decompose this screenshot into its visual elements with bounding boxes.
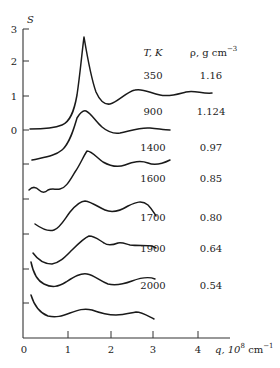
table-header-density: ρ, g cm−3 (190, 45, 237, 58)
x-axis-label: q, 108 cm−1 (215, 342, 274, 355)
header-rho-exp: −3 (227, 45, 237, 53)
y-tick-label: 3 (11, 24, 17, 35)
row-T: 900 (143, 106, 162, 117)
row-T: 350 (143, 70, 162, 81)
row-T: 1900 (140, 243, 165, 254)
x-tick-label: 1 (65, 344, 71, 355)
curve-350K (30, 37, 212, 129)
row-rho: 0.64 (200, 243, 222, 254)
row-rho: 1.16 (200, 70, 222, 81)
legend-table: T, K ρ, g cm−3 350 1.16 900 1.124 1400 0… (140, 45, 237, 291)
row-rho: 1.124 (197, 106, 226, 117)
row-rho: 0.54 (200, 280, 222, 291)
row-T: 2000 (140, 280, 165, 291)
header-rho-text: ρ, g cm (190, 47, 227, 58)
row-rho: 0.97 (200, 142, 222, 153)
row-T: 1600 (140, 173, 165, 184)
x-axis-label-q: q, 10 (215, 344, 241, 355)
x-tick-label: 2 (108, 344, 114, 355)
row-rho: 0.80 (200, 212, 222, 223)
y-tick-label: 1 (11, 91, 17, 102)
x-tick-label: 4 (195, 344, 201, 355)
row-T: 1700 (140, 212, 165, 223)
curves (29, 37, 212, 319)
x-tick-label: 3 (150, 344, 156, 355)
y-tick-label: 0 (11, 125, 17, 136)
x-tick-label: 0 (21, 344, 27, 355)
curve-2000K (31, 295, 154, 319)
axes: 3 2 1 0 0 1 2 3 4 S q, 108 cm−1 (11, 14, 274, 355)
curve-1700K (33, 236, 156, 264)
y-tick-label: 2 (11, 56, 17, 67)
x-axis-label-unit-exp: −1 (263, 342, 273, 350)
structure-factor-chart: 3 2 1 0 0 1 2 3 4 S q, 108 cm−1 T, K ρ, … (0, 0, 280, 368)
curve-1400K (29, 151, 170, 192)
y-axis-label: S (27, 14, 34, 25)
curve-1900K (31, 262, 155, 286)
header-T-text: T, K (143, 47, 163, 58)
x-axis-label-unit: cm (245, 344, 264, 355)
row-rho: 0.85 (200, 173, 222, 184)
curve-1600K (35, 201, 156, 231)
table-header-temperature: T, K (143, 47, 163, 58)
row-T: 1400 (140, 142, 165, 153)
